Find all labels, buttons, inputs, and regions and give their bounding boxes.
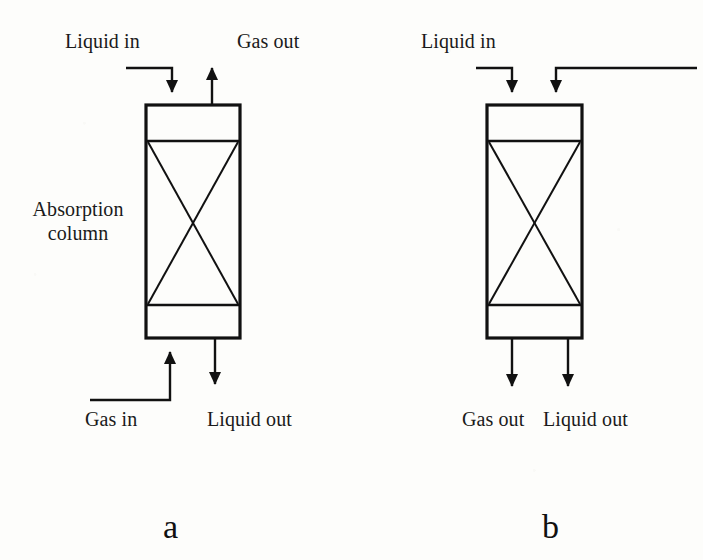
label-liquid-out-b: Liquid out: [543, 408, 628, 430]
label-liquid-out-a: Liquid out: [207, 408, 292, 430]
label-liquid-in-b: Liquid in: [421, 30, 496, 52]
label-liquid-in-a: Liquid in: [65, 30, 140, 52]
process-flow-diagram: [0, 0, 703, 560]
panel-b-column: [487, 105, 582, 338]
stream-liquid-in-b: [476, 68, 512, 92]
label-gas-in-a: Gas in: [85, 408, 137, 430]
panel-a-column: [146, 105, 240, 338]
stream-liquid-in-a: [126, 68, 172, 92]
stream-gas-in-b: [556, 68, 697, 92]
caption-a: a: [163, 508, 178, 546]
label-gas-out-b: Gas out: [462, 408, 524, 430]
label-gas-out-a: Gas out: [237, 30, 299, 52]
label-absorption-column-line1: Absorption: [18, 198, 138, 220]
stream-gas-in-a: [90, 352, 170, 400]
figure-canvas: Liquid in Gas out Absorption column Gas …: [0, 0, 703, 560]
label-absorption-column-line2: column: [18, 222, 138, 244]
caption-b: b: [542, 508, 559, 546]
